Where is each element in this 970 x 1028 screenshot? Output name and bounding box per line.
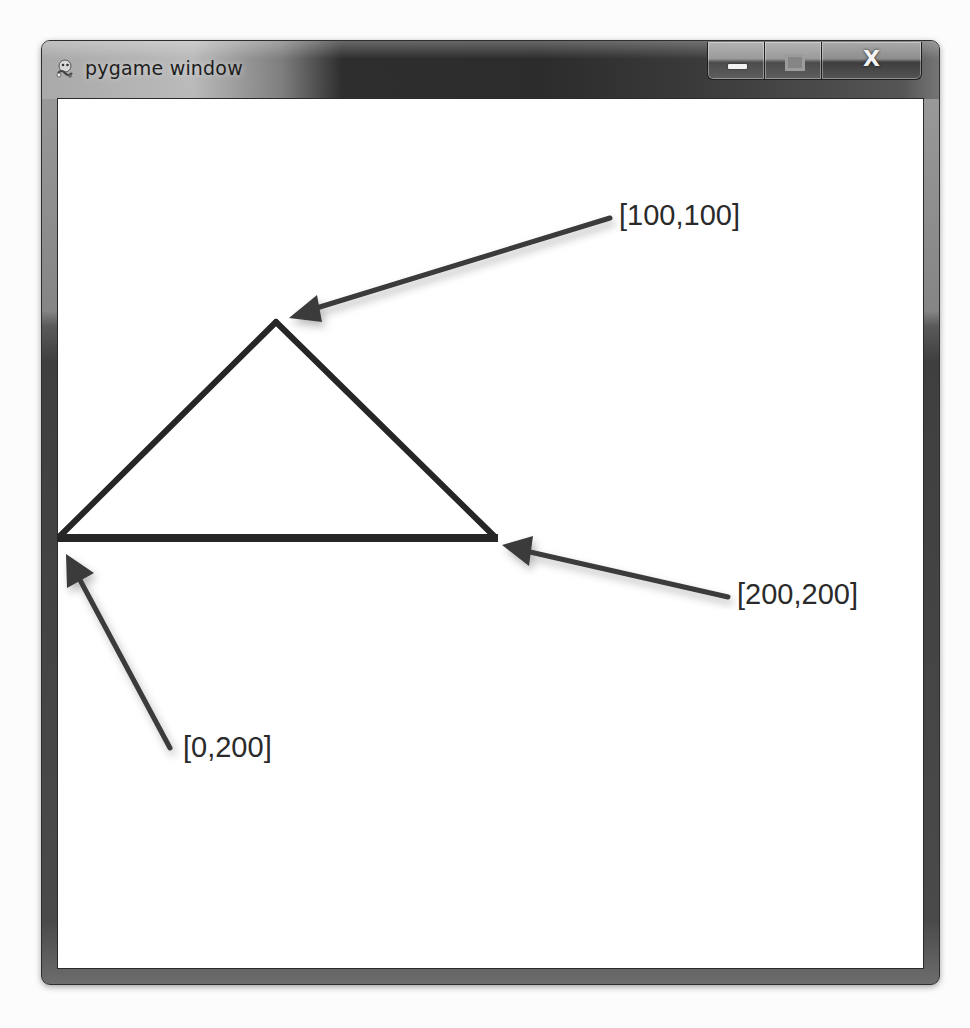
maximize-button[interactable] xyxy=(765,42,822,80)
label-left-vertex: [0,200] xyxy=(183,731,272,764)
label-top-vertex: [100,100] xyxy=(619,199,740,232)
window-title: pygame window xyxy=(85,57,243,79)
pygame-canvas[interactable] xyxy=(57,98,924,969)
close-button[interactable]: X xyxy=(822,42,922,80)
label-right-vertex: [200,200] xyxy=(737,578,858,611)
close-icon: X xyxy=(822,46,921,71)
maximize-icon xyxy=(785,54,805,71)
screen: pygame window X xyxy=(0,0,970,1028)
minimize-icon xyxy=(728,64,747,69)
pygame-snake-icon xyxy=(54,58,76,80)
title-bar[interactable]: pygame window X xyxy=(42,41,939,99)
pygame-window: pygame window X xyxy=(41,40,940,985)
window-controls: X xyxy=(707,42,922,80)
minimize-button[interactable] xyxy=(707,42,765,80)
